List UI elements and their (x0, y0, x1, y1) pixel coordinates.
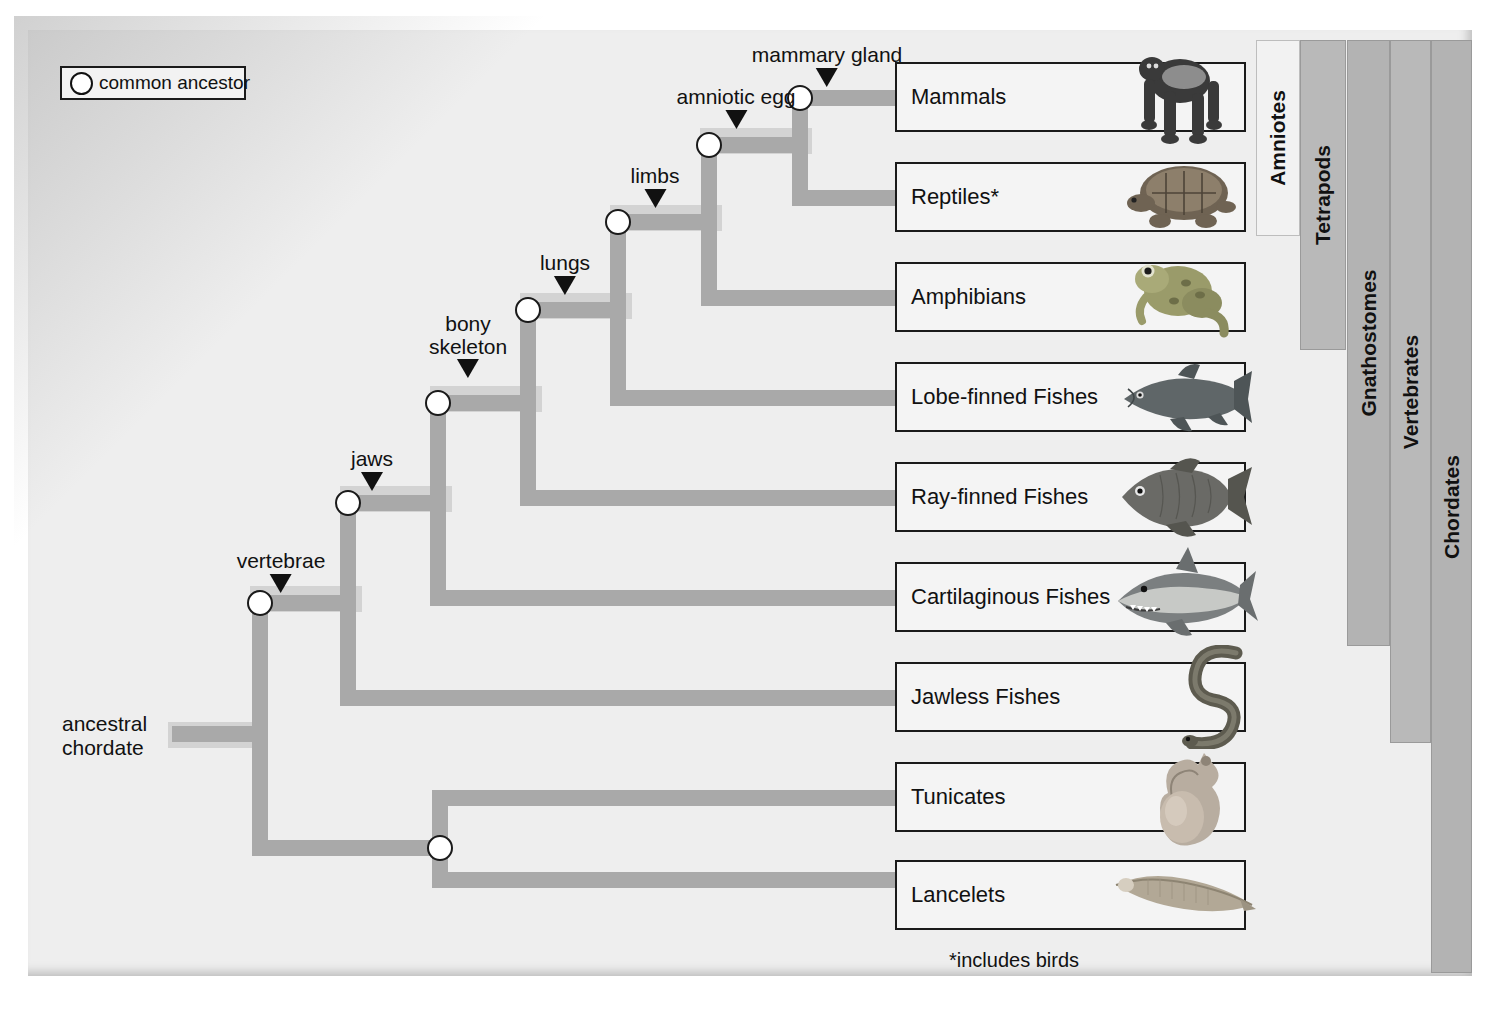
tunicate-illustration (1108, 745, 1258, 849)
trait-arrow-icon (361, 472, 383, 491)
taxon-label: Cartilaginous Fishes (911, 584, 1110, 610)
branch-vertebrates-vertical (340, 495, 356, 706)
node-chordates-root (247, 590, 273, 616)
gorilla-illustration (1108, 45, 1258, 149)
trait-vertebrae-label: vertebrae (237, 549, 326, 572)
taxon-label: Lobe-finned Fishes (911, 384, 1098, 410)
trait-amniotic-egg-label: amniotic egg (676, 85, 795, 108)
node-bony-fishes (515, 297, 541, 323)
taxon-box-mammals[interactable]: Mammals (895, 62, 1246, 132)
branch-lancelets (432, 872, 902, 888)
lamprey-illustration (1108, 645, 1258, 749)
legend-label: common ancestor (99, 72, 250, 94)
branch-reptiles (792, 190, 902, 206)
bony-fish-illustration (1108, 445, 1258, 549)
frog-illustration (1108, 245, 1258, 349)
branch-cartilaginous-fishes (430, 590, 900, 606)
branch-tunicates (432, 790, 902, 806)
clade-bar-tetrapods: Tetrapods (1300, 40, 1346, 350)
clade-label: Chordates (1440, 455, 1464, 559)
clade-label: Vertebrates (1399, 334, 1423, 448)
taxon-label: Tunicates (911, 784, 1006, 810)
trait-arrow-icon (644, 189, 666, 208)
trait-arrow-icon (554, 276, 576, 295)
ancestral-chordate-label: ancestral chordate (62, 712, 147, 760)
shark-illustration (1108, 545, 1258, 649)
node-tetrapods (696, 132, 722, 158)
trait-lungs: lungs (540, 252, 590, 295)
legend-box: common ancestor (60, 66, 246, 100)
taxon-box-reptiles[interactable]: Reptiles* (895, 162, 1246, 232)
node-gnathostomes (425, 390, 451, 416)
branch-ray-finned-fishes (520, 490, 900, 506)
branch-gnathostomes-vertical (430, 395, 446, 606)
ancestral-chordate-line1: ancestral (62, 712, 147, 735)
trait-arrow-icon (270, 574, 292, 593)
trait-bony-skeleton-label-1: bony (445, 312, 491, 335)
taxon-label: Ray-finned Fishes (911, 484, 1088, 510)
lancelet-illustration (1108, 843, 1258, 947)
trait-limbs-label: limbs (630, 164, 679, 187)
taxon-box-amphibians[interactable]: Amphibians (895, 262, 1246, 332)
taxon-box-lancelets[interactable]: Lancelets (895, 860, 1246, 930)
trait-bony-skeleton-label-2: skeleton (429, 335, 507, 358)
trait-mammary-gland-label: mammary gland (752, 43, 903, 66)
branch-lunged-vertical (610, 214, 626, 406)
taxon-label: Reptiles* (911, 184, 999, 210)
trait-bony-skeleton: bony skeleton (429, 313, 507, 378)
taxon-label: Amphibians (911, 284, 1026, 310)
coelacanth-illustration (1108, 345, 1258, 449)
footnote-text: *includes birds (949, 949, 1079, 972)
taxon-box-ray-finned-fishes[interactable]: Ray-finned Fishes (895, 462, 1246, 532)
branch-tetrapods-vertical (701, 137, 717, 306)
trait-arrow-icon (457, 359, 479, 378)
branch-jawless-fishes (340, 690, 900, 706)
clade-label: Tetrapods (1311, 145, 1335, 245)
branch-lobe-finned-fishes (610, 390, 900, 406)
branch-to-tunicate-lancelet-split (252, 840, 448, 856)
trait-vertebrae: vertebrae (237, 550, 326, 593)
node-tunicate-lancelet (427, 835, 453, 861)
taxon-box-tunicates[interactable]: Tunicates (895, 762, 1246, 832)
trait-arrow-icon (816, 68, 838, 87)
taxon-label: Lancelets (911, 882, 1005, 908)
taxon-label: Jawless Fishes (911, 684, 1060, 710)
taxon-label: Mammals (911, 84, 1006, 110)
ancestral-chordate-line2: chordate (62, 736, 144, 759)
taxon-box-lobe-finned-fishes[interactable]: Lobe-finned Fishes (895, 362, 1246, 432)
trait-jaws: jaws (351, 448, 393, 491)
trait-mammary-gland: mammary gland (752, 44, 903, 87)
branch-bony-vertical (520, 302, 536, 506)
figure-page: common ancestor (0, 0, 1492, 1016)
node-lunged (605, 209, 631, 235)
trait-arrow-icon (725, 110, 747, 129)
phylogenetic-tree-canvas: common ancestor (0, 0, 1492, 1016)
branch-amphibians (701, 290, 900, 306)
taxon-box-jawless-fishes[interactable]: Jawless Fishes (895, 662, 1246, 732)
trait-amniotic-egg: amniotic egg (676, 86, 795, 129)
trait-limbs: limbs (630, 165, 679, 208)
clade-label: Gnathostomes (1357, 269, 1381, 416)
clade-bar-chordates: Chordates (1431, 40, 1472, 973)
taxon-box-cartilaginous-fishes[interactable]: Cartilaginous Fishes (895, 562, 1246, 632)
clade-bar-amniotes: Amniotes (1256, 40, 1300, 236)
trait-jaws-label: jaws (351, 447, 393, 470)
turtle-illustration (1108, 145, 1258, 249)
branch-root-vertical (252, 595, 268, 856)
trait-lungs-label: lungs (540, 251, 590, 274)
clade-bar-gnathostomes: Gnathostomes (1347, 40, 1390, 646)
common-ancestor-circle-icon (70, 72, 93, 95)
clade-bar-vertebrates: Vertebrates (1390, 40, 1431, 743)
clade-label: Amniotes (1266, 90, 1290, 186)
node-vertebrates (335, 490, 361, 516)
